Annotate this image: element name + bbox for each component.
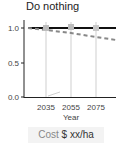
faint-series-line xyxy=(48,92,60,96)
marker-2075 xyxy=(93,25,99,31)
cost-value: $ xx/ha xyxy=(62,129,94,140)
cost-box: Cost $ xx/ha xyxy=(28,127,104,143)
x-tick-2035: 2035 xyxy=(37,103,55,112)
marker-2035 xyxy=(43,25,49,31)
cost-label: Cost xyxy=(38,129,59,140)
line-chart: 1.0 0.5 0.0 2035 2055 2075 Year xyxy=(0,0,116,125)
y-tick-05: 0.5 xyxy=(8,59,20,68)
marker-2055 xyxy=(68,24,74,30)
x-tick-2055: 2055 xyxy=(62,103,80,112)
y-tick-0: 0.0 xyxy=(8,93,20,102)
y-tick-1: 1.0 xyxy=(8,24,20,33)
x-axis-label: Year xyxy=(63,113,80,122)
x-tick-2075: 2075 xyxy=(87,103,105,112)
